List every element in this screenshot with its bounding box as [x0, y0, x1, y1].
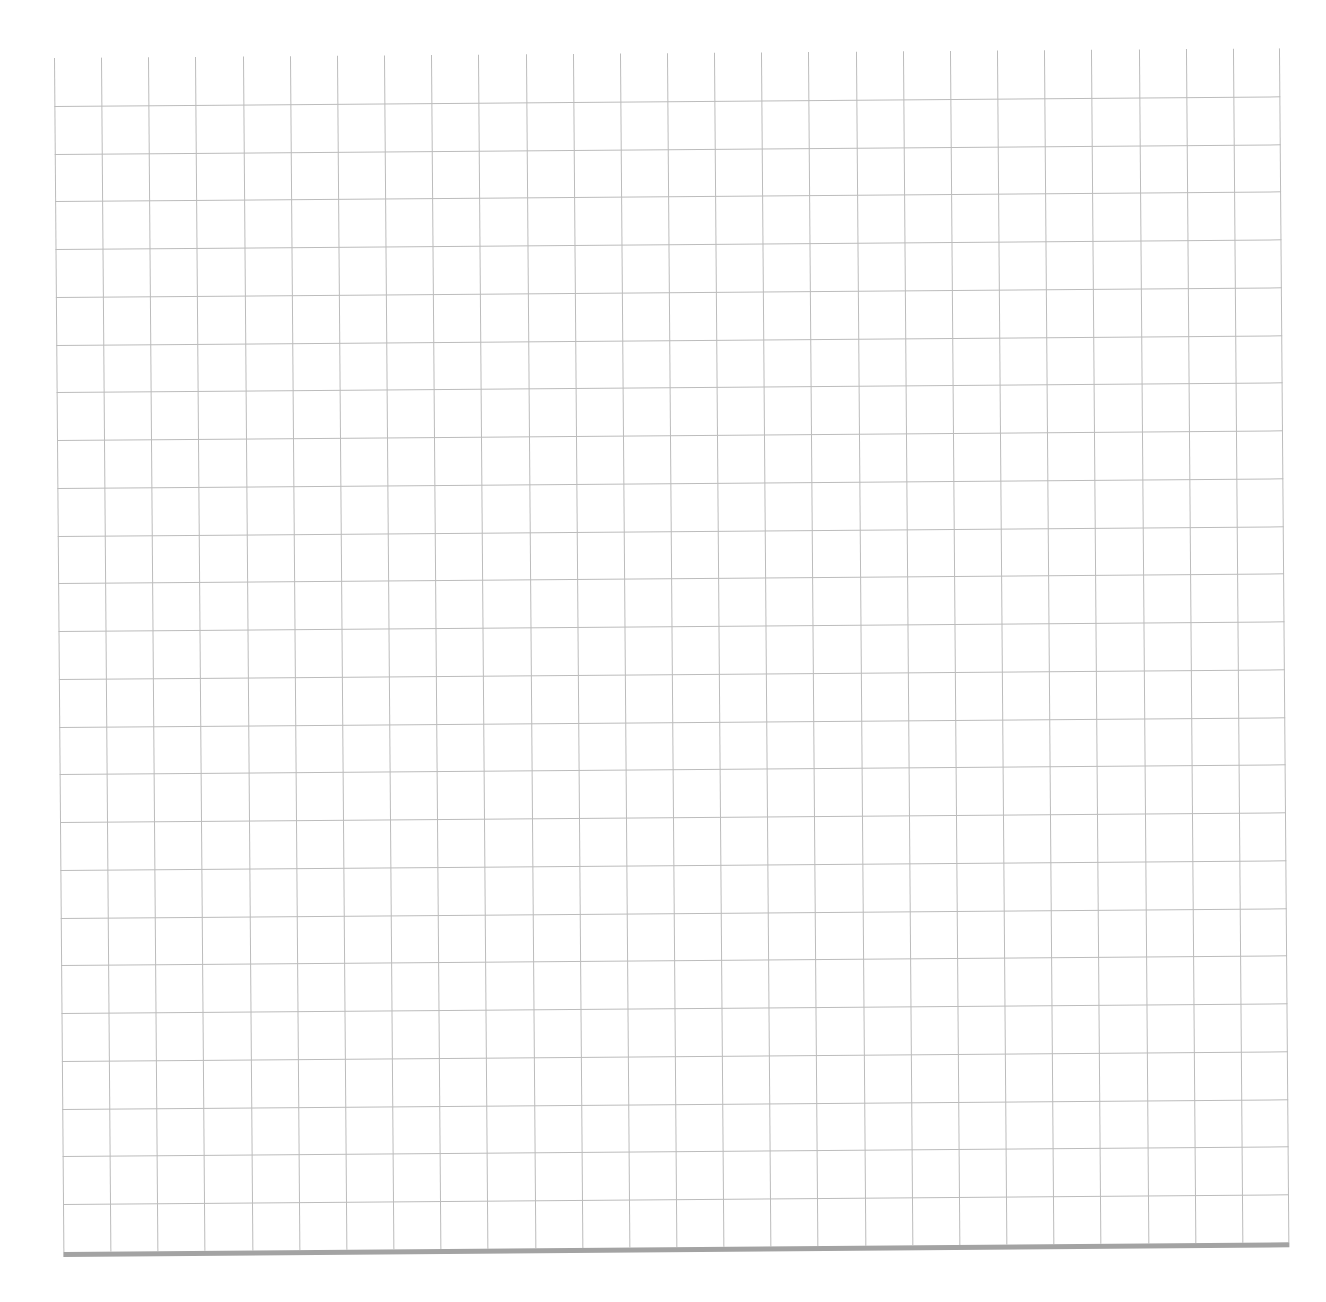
grid-vertical-line [808, 52, 818, 1246]
grid-vertical-line [290, 56, 300, 1250]
grid-vertical-line [1279, 48, 1289, 1242]
grid-vertical-line [526, 54, 536, 1248]
grid-vertical-line [54, 58, 64, 1252]
grid-vertical-line [1186, 49, 1196, 1243]
grid-vertical-line [1044, 50, 1054, 1244]
grid-vertical-line [1091, 50, 1101, 1244]
grid [54, 48, 1289, 1252]
grid-vertical-line [1233, 49, 1243, 1243]
grid-vertical-line [478, 55, 488, 1249]
graph-paper-sheet [54, 48, 1289, 1252]
grid-vertical-line [431, 55, 441, 1249]
grid-vertical-line [195, 57, 205, 1251]
grid-vertical-line [761, 52, 771, 1246]
grid-vertical-line [1139, 49, 1149, 1243]
grid-vertical-line [950, 51, 960, 1245]
grid-vertical-line [337, 56, 347, 1250]
grid-vertical-line [714, 53, 724, 1247]
grid-vertical-line [573, 54, 583, 1248]
grid-vertical-line [384, 55, 394, 1249]
grid-vertical-line [997, 51, 1007, 1245]
grid-vertical-line [148, 57, 158, 1251]
grid-vertical-line [101, 58, 111, 1252]
grid-vertical-line [903, 51, 913, 1245]
grid-vertical-line [667, 53, 677, 1247]
grid-vertical-line [243, 57, 253, 1251]
grid-vertical-line [856, 52, 866, 1246]
grid-vertical-line [620, 54, 630, 1248]
